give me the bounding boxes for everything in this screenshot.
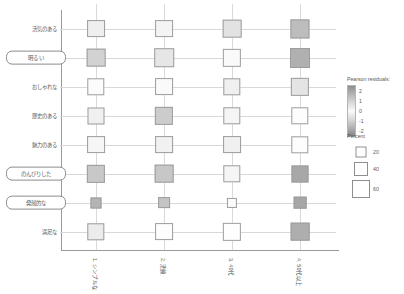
- heatmap-tile: [294, 196, 307, 209]
- heatmap-tile: [155, 136, 173, 154]
- residual-tick-label: 2: [359, 88, 362, 94]
- percent-legend-box: [352, 180, 370, 198]
- y-axis-label: 魅力のある: [6, 141, 58, 149]
- percent-legend: Percent 204060: [347, 133, 365, 142]
- heatmap-tile: [223, 19, 242, 38]
- column-gridline: [300, 4, 301, 250]
- heatmap-tile: [155, 223, 173, 241]
- residual-gradient-bar: [347, 85, 356, 137]
- heatmap-tile: [87, 78, 104, 95]
- heatmap-tile: [87, 223, 104, 240]
- percent-legend-label: 40: [373, 166, 379, 172]
- y-axis-label: 活気のある: [6, 25, 58, 33]
- pearson-residuals-legend: Pearson residuals: 210-1-2: [347, 76, 390, 85]
- heatmap-tile: [290, 19, 309, 38]
- x-axis-label: 2. 洗練: [159, 258, 167, 275]
- pearson-residuals-legend-title: Pearson residuals:: [347, 76, 390, 82]
- y-axis-label: おしゃれな: [6, 83, 58, 91]
- heatmap-tile: [88, 107, 105, 124]
- percent-legend-title: Percent: [347, 133, 365, 139]
- heatmap-tile: [223, 136, 241, 154]
- x-axis-label: 1. シンプルな: [91, 258, 99, 290]
- heatmap-tile: [155, 20, 173, 38]
- x-axis-line: [61, 250, 339, 251]
- residual-tick-label: -1: [359, 118, 364, 124]
- y-axis-label: 明るい: [6, 50, 66, 65]
- column-gridline: [232, 4, 233, 250]
- residual-tick-label: 0: [359, 108, 362, 114]
- association-plot-root: 活気のある明るいおしゃれな歴史のある魅力のあるのんびりした発展的な満足な 1. …: [0, 0, 404, 294]
- heatmap-tile: [291, 77, 309, 95]
- heatmap-tile: [227, 197, 237, 207]
- heatmap-tile: [155, 106, 173, 124]
- heatmap-tile: [155, 164, 174, 183]
- percent-legend-label: 20: [373, 149, 379, 155]
- heatmap-tile: [87, 48, 106, 67]
- residual-tick-label: 1: [359, 98, 362, 104]
- percent-legend-box: [356, 147, 367, 158]
- percent-legend-label: 60: [373, 186, 379, 192]
- heatmap-tile: [87, 164, 105, 182]
- y-axis-label: 満足な: [6, 228, 58, 236]
- heatmap-tile: [155, 78, 173, 96]
- heatmap-tile: [223, 165, 240, 182]
- y-axis-label: 発展的な: [6, 195, 66, 210]
- heatmap-tile: [223, 78, 240, 95]
- heatmap-tile: [87, 136, 105, 154]
- column-gridline: [96, 4, 97, 250]
- heatmap-tile: [154, 48, 174, 68]
- x-axis-label: 3. 40代: [227, 258, 235, 276]
- x-axis-label: 4. 50代以上: [295, 258, 303, 286]
- heatmap-tile: [87, 20, 105, 38]
- heatmap-tile: [292, 165, 309, 182]
- residual-gradient-ticks: 210-1-2: [359, 85, 381, 137]
- y-axis-line: [61, 10, 62, 250]
- heatmap-tile: [291, 107, 308, 124]
- heatmap-tile: [223, 48, 241, 66]
- heatmap-tile: [291, 136, 308, 153]
- y-axis-label: のんびりした: [6, 166, 66, 181]
- heatmap-tile: [223, 107, 240, 124]
- heatmap-tile: [290, 48, 310, 68]
- column-gridline: [164, 4, 165, 250]
- heatmap-tile: [223, 222, 241, 240]
- y-axis-label: 歴史のある: [6, 112, 58, 120]
- percent-legend-box: [354, 162, 368, 176]
- heatmap-tile: [158, 197, 170, 209]
- heatmap-tile: [91, 197, 102, 208]
- heatmap-tile: [291, 222, 310, 241]
- plot-panel: [62, 14, 334, 246]
